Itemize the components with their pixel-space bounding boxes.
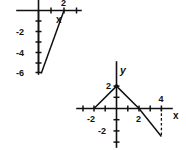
upper-x-tick-label-2: 2 [61,0,66,8]
figure-canvas: 2 x -2 -4 -6 [0,0,186,150]
lower-y-axis-label: y [119,64,127,76]
upper-x-axis-label: x [56,14,62,25]
lower-vertex-marker [115,84,119,88]
lower-vertex-label-2: 2 [106,81,111,91]
upper-y-tick-label-minus6: -6 [16,68,24,78]
lower-x-tick-label-2: 2 [136,114,141,124]
upper-y-tick-label-minus2: -2 [16,27,24,37]
two-graph-figure: 2 x -2 -4 -6 [0,0,186,150]
lower-graph-panel: y x 2 -2 2 4 -2 [77,62,179,147]
lower-x-axis-label: x [173,110,179,121]
upper-graph-panel: 2 x -2 -4 -6 [16,0,81,78]
upper-y-tick-label-minus4: -4 [16,48,24,58]
lower-y-tick-label-minus2: -2 [98,126,106,136]
lower-x-tick-label-4: 4 [159,94,164,104]
lower-x-tick-label-minus2: -2 [87,114,95,124]
